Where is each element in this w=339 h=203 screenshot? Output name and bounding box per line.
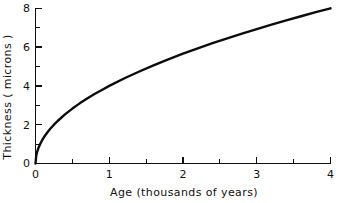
x-axis-tick-labels: 0 1 2 3 4 <box>32 168 334 181</box>
y-tick-label-4: 4 <box>23 80 30 93</box>
x-axis-ticks <box>36 157 331 164</box>
x-tick-label-4: 4 <box>327 168 334 181</box>
chart-figure: 0 2 4 6 8 0 1 2 3 4 Age (thousands of ye… <box>0 0 339 203</box>
y-tick-label-8: 8 <box>23 2 30 15</box>
x-tick-label-3: 3 <box>253 168 260 181</box>
x-axis-title: Age (thousands of years) <box>110 186 258 199</box>
y-axis-tick-labels: 0 2 4 6 8 <box>23 2 30 170</box>
thickness-vs-age-curve <box>36 8 331 163</box>
chart-canvas: 0 2 4 6 8 0 1 2 3 4 Age (thousands of ye… <box>0 0 339 203</box>
x-tick-label-2: 2 <box>180 168 187 181</box>
y-tick-label-2: 2 <box>23 119 30 132</box>
axis-lines <box>35 8 331 164</box>
y-tick-label-0: 0 <box>23 157 30 170</box>
x-tick-label-0: 0 <box>32 168 39 181</box>
y-axis-title: Thickness ( microns ) <box>1 34 14 160</box>
y-tick-label-6: 6 <box>23 41 30 54</box>
x-tick-label-1: 1 <box>106 168 113 181</box>
